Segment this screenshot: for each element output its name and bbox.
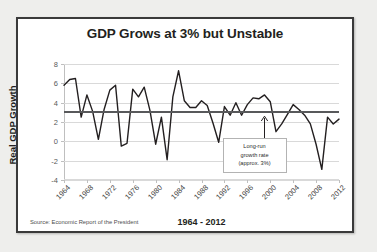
plot-area: -4-202468 196419681972197619801984198819… xyxy=(64,64,339,180)
annotation-box: Long-run growth rate (approx. 3%) xyxy=(223,138,287,172)
y-tick-label: 6 xyxy=(38,79,58,88)
data-series xyxy=(64,64,339,180)
x-tick-mark xyxy=(202,180,203,183)
x-tick-label: 1980 xyxy=(146,183,164,201)
annotation-line-2: growth rate xyxy=(226,151,284,159)
long-run-growth-trendline xyxy=(64,111,339,113)
annotation-arrow xyxy=(260,114,269,138)
x-tick-mark xyxy=(179,180,180,183)
y-tick-label: -4 xyxy=(38,176,58,185)
y-tick-label: 0 xyxy=(38,137,58,146)
chart-frame: GDP Grows at 3% but Unstable Real GDP Gr… xyxy=(16,17,354,233)
y-tick-label: 8 xyxy=(38,60,58,69)
x-tick-label: 2000 xyxy=(260,183,278,201)
plot-wrapper: Real GDP Growth -4-202468 19641968197219… xyxy=(18,19,352,231)
x-tick-label: 1968 xyxy=(77,183,95,201)
screenshot-root: GDP Grows at 3% but Unstable Real GDP Gr… xyxy=(0,0,377,252)
x-tick-label: 2012 xyxy=(329,183,347,201)
x-tick-label: 1988 xyxy=(192,183,210,201)
x-tick-label: 1976 xyxy=(123,183,141,201)
x-tick-label: 1992 xyxy=(214,183,232,201)
x-tick-label: 2008 xyxy=(306,183,324,201)
x-tick-label: 2004 xyxy=(283,183,301,201)
annotation-line-3: (approx. 3%) xyxy=(226,159,284,167)
x-tick-label: 1972 xyxy=(100,183,118,201)
x-tick-label: 1996 xyxy=(237,183,255,201)
annotation-line-1: Long-run xyxy=(226,142,284,150)
y-tick-label: 2 xyxy=(38,118,58,127)
x-tick-label: 1964 xyxy=(54,183,72,201)
source-note: Source: Economic Report of the President xyxy=(30,219,138,225)
y-axis-title: Real GDP Growth xyxy=(7,85,18,164)
y-tick-label: 4 xyxy=(38,98,58,107)
x-tick-label: 1984 xyxy=(169,183,187,201)
y-tick-label: -2 xyxy=(38,156,58,165)
